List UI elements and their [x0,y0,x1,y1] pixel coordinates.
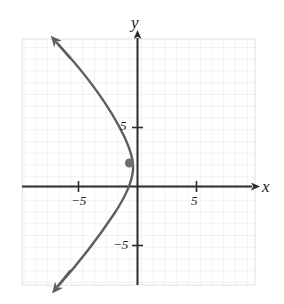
y-tick-label-positive-5: 5 [120,119,127,132]
coordinate-plane [0,0,284,304]
graph-figure: y x −5 5 5 −5 [0,0,284,304]
y-tick-label-negative-5: −5 [113,238,128,251]
x-tick-label-negative-5: −5 [71,194,86,207]
plotted-point [125,158,134,167]
x-tick-label-positive-5: 5 [191,194,198,207]
y-axis-label: y [131,14,139,31]
x-axis-label: x [262,178,270,195]
